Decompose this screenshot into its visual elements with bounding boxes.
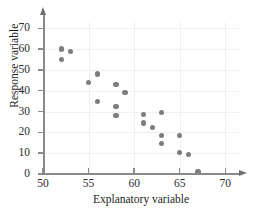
y-axis-tick [38, 111, 44, 112]
x-axis-tick-label: 70 [212, 178, 238, 190]
gridline-vertical [89, 22, 90, 174]
y-axis-label: Response variable [9, 1, 21, 131]
x-axis-tick [225, 168, 226, 174]
y-axis-tick-label: 0 [8, 168, 30, 180]
y-axis-tick [38, 28, 44, 29]
x-axis-arrow-icon [239, 170, 247, 176]
data-point [68, 49, 73, 54]
y-axis-tick [38, 48, 44, 49]
gridline-horizontal [43, 132, 239, 133]
gridline-horizontal [43, 153, 239, 154]
gridline-horizontal [43, 70, 239, 71]
data-point [113, 113, 118, 118]
gridline-horizontal [43, 91, 239, 92]
x-axis-line [43, 173, 239, 175]
y-axis-tick-label: 10 [8, 147, 30, 159]
x-axis-tick [88, 168, 89, 174]
data-point [113, 104, 118, 109]
gridline-vertical [225, 22, 226, 174]
data-point [141, 120, 146, 125]
y-axis-tick [38, 132, 44, 133]
data-point [159, 110, 164, 115]
data-point [159, 141, 164, 146]
y-axis-tick [38, 90, 44, 91]
data-point [141, 112, 146, 117]
x-axis-tick [179, 168, 180, 174]
gridline-vertical [134, 22, 135, 174]
data-point [113, 82, 118, 87]
data-point [59, 57, 64, 62]
scatter-plot-figure: 0102030405060705055606570 Explanatory va… [0, 0, 258, 215]
x-axis-tick-label: 55 [76, 178, 102, 190]
x-axis-tick-label: 50 [30, 178, 56, 190]
x-axis-tick-label: 65 [167, 178, 193, 190]
y-axis-arrow-icon [40, 7, 46, 15]
data-point [95, 71, 100, 76]
data-point [159, 133, 164, 138]
x-axis-label: Explanatory variable [43, 194, 239, 206]
y-axis-tick [38, 69, 44, 70]
x-axis-tick [133, 168, 134, 174]
data-point [177, 133, 182, 138]
y-axis-line [43, 14, 45, 174]
y-axis-tick [38, 152, 44, 153]
data-point [95, 99, 100, 104]
plot-area [43, 22, 239, 174]
data-point [150, 125, 155, 130]
data-point [59, 46, 64, 51]
data-point [186, 152, 191, 157]
gridline-horizontal [43, 28, 239, 29]
data-point [86, 80, 91, 85]
data-point [122, 90, 127, 95]
x-axis-tick [42, 168, 43, 174]
x-axis-tick-label: 60 [121, 178, 147, 190]
